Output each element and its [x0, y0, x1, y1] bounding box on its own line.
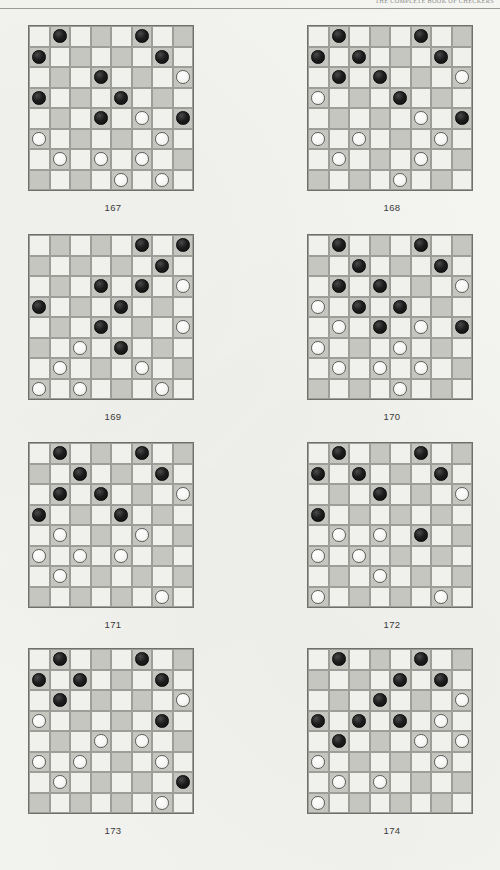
checkerboard-174[interactable]	[307, 648, 473, 814]
square-r0-c7[interactable]	[452, 235, 473, 256]
square-r3-c7[interactable]	[173, 88, 194, 109]
square-r3-c7[interactable]	[173, 711, 194, 732]
square-r4-c4[interactable]	[390, 108, 411, 129]
white-piece[interactable]	[32, 755, 46, 769]
square-r2-c3[interactable]	[370, 67, 391, 88]
square-r0-c7[interactable]	[173, 26, 194, 47]
square-r4-c7[interactable]	[452, 525, 473, 546]
square-r4-c6[interactable]	[152, 108, 173, 129]
square-r6-c3[interactable]	[370, 566, 391, 587]
black-piece[interactable]	[332, 70, 346, 84]
square-r0-c1[interactable]	[50, 26, 71, 47]
square-r6-c6[interactable]	[431, 772, 452, 793]
square-r2-c7[interactable]	[173, 67, 194, 88]
white-piece[interactable]	[135, 111, 149, 125]
square-r1-c6[interactable]	[431, 464, 452, 485]
square-r5-c4[interactable]	[111, 338, 132, 359]
square-r5-c5[interactable]	[132, 546, 153, 567]
square-r4-c2[interactable]	[70, 317, 91, 338]
square-r5-c2[interactable]	[70, 546, 91, 567]
square-r4-c4[interactable]	[111, 317, 132, 338]
square-r6-c4[interactable]	[390, 566, 411, 587]
square-r2-c0[interactable]	[308, 484, 329, 505]
square-r1-c5[interactable]	[132, 256, 153, 277]
square-r7-c1[interactable]	[329, 793, 350, 814]
black-piece[interactable]	[414, 652, 428, 666]
white-piece[interactable]	[311, 796, 325, 810]
white-piece[interactable]	[332, 152, 346, 166]
black-piece[interactable]	[155, 50, 169, 64]
square-r5-c5[interactable]	[132, 752, 153, 773]
square-r5-c6[interactable]	[152, 338, 173, 359]
square-r3-c4[interactable]	[111, 88, 132, 109]
square-r2-c3[interactable]	[91, 690, 112, 711]
black-piece[interactable]	[114, 341, 128, 355]
black-piece[interactable]	[373, 70, 387, 84]
square-r2-c2[interactable]	[70, 484, 91, 505]
square-r0-c1[interactable]	[329, 649, 350, 670]
square-r0-c1[interactable]	[329, 26, 350, 47]
square-r6-c3[interactable]	[91, 566, 112, 587]
white-piece[interactable]	[114, 549, 128, 563]
white-piece[interactable]	[434, 590, 448, 604]
square-r2-c0[interactable]	[308, 276, 329, 297]
square-r1-c2[interactable]	[70, 256, 91, 277]
square-r6-c2[interactable]	[349, 772, 370, 793]
square-r7-c7[interactable]	[173, 170, 194, 191]
square-r6-c3[interactable]	[370, 149, 391, 170]
square-r1-c1[interactable]	[50, 464, 71, 485]
black-piece[interactable]	[176, 111, 190, 125]
square-r3-c0[interactable]	[308, 297, 329, 318]
square-r7-c6[interactable]	[431, 170, 452, 191]
square-r7-c3[interactable]	[370, 793, 391, 814]
black-piece[interactable]	[332, 29, 346, 43]
square-r3-c1[interactable]	[50, 88, 71, 109]
white-piece[interactable]	[73, 341, 87, 355]
square-r5-c0[interactable]	[308, 338, 329, 359]
square-r0-c6[interactable]	[431, 26, 452, 47]
square-r7-c0[interactable]	[308, 793, 329, 814]
square-r5-c1[interactable]	[50, 338, 71, 359]
square-r6-c1[interactable]	[50, 566, 71, 587]
square-r2-c7[interactable]	[452, 276, 473, 297]
square-r2-c4[interactable]	[111, 67, 132, 88]
square-r1-c7[interactable]	[173, 464, 194, 485]
square-r2-c4[interactable]	[111, 484, 132, 505]
square-r2-c7[interactable]	[452, 67, 473, 88]
square-r1-c6[interactable]	[431, 256, 452, 277]
square-r0-c3[interactable]	[370, 649, 391, 670]
square-r5-c1[interactable]	[50, 752, 71, 773]
square-r3-c0[interactable]	[29, 505, 50, 526]
square-r3-c2[interactable]	[349, 505, 370, 526]
square-r3-c7[interactable]	[452, 297, 473, 318]
square-r0-c4[interactable]	[111, 26, 132, 47]
square-r4-c5[interactable]	[411, 317, 432, 338]
square-r1-c6[interactable]	[152, 464, 173, 485]
square-r5-c2[interactable]	[349, 129, 370, 150]
square-r4-c5[interactable]	[132, 525, 153, 546]
black-piece[interactable]	[53, 446, 67, 460]
square-r7-c7[interactable]	[452, 379, 473, 400]
square-r1-c2[interactable]	[349, 256, 370, 277]
square-r4-c3[interactable]	[91, 108, 112, 129]
square-r6-c6[interactable]	[431, 149, 452, 170]
white-piece[interactable]	[414, 111, 428, 125]
square-r6-c5[interactable]	[411, 566, 432, 587]
square-r3-c1[interactable]	[329, 505, 350, 526]
square-r5-c4[interactable]	[390, 338, 411, 359]
white-piece[interactable]	[53, 528, 67, 542]
square-r6-c7[interactable]	[173, 149, 194, 170]
checkerboard-169[interactable]	[28, 234, 194, 400]
square-r1-c2[interactable]	[70, 670, 91, 691]
square-r0-c3[interactable]	[370, 235, 391, 256]
square-r5-c1[interactable]	[329, 752, 350, 773]
square-r3-c6[interactable]	[431, 505, 452, 526]
white-piece[interactable]	[176, 279, 190, 293]
square-r2-c1[interactable]	[50, 484, 71, 505]
square-r2-c6[interactable]	[152, 276, 173, 297]
square-r5-c5[interactable]	[411, 338, 432, 359]
square-r4-c6[interactable]	[431, 317, 452, 338]
black-piece[interactable]	[393, 300, 407, 314]
square-r6-c2[interactable]	[349, 149, 370, 170]
black-piece[interactable]	[94, 320, 108, 334]
